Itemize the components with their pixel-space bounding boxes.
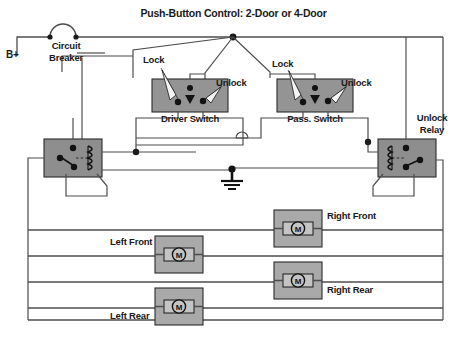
driver-lock-label: Lock — [143, 55, 164, 65]
right-front-motor-symbol: M — [295, 225, 302, 234]
wire-crossover-hop — [136, 132, 261, 145]
battery-positive-label: B+ — [6, 50, 19, 61]
door-lock-wiring-diagram: M M M M Push-Button Control: 2-Door or 4… — [0, 0, 467, 345]
breaker-terminal-dots — [47, 34, 78, 39]
lock-relay-body[interactable] — [44, 139, 102, 177]
right-rear-motor-symbol: M — [295, 277, 302, 286]
driver-unlock-label: Unlock — [216, 78, 246, 88]
motor-bus-rails — [28, 230, 443, 320]
passenger-lock-label: Lock — [272, 59, 293, 69]
circuit-breaker-label-line1: Circuit — [40, 41, 92, 51]
diagram-title: Push-Button Control: 2-Door or 4-Door — [0, 8, 467, 19]
unlock-relay-body[interactable] — [378, 139, 436, 177]
unlock-relay-label-line1: Unlock — [404, 113, 460, 123]
chassis-ground-symbol — [221, 165, 243, 189]
left-feed-wires — [100, 37, 133, 78]
passenger-unlock-label: Unlock — [341, 78, 371, 88]
left-rear-motor-symbol: M — [176, 303, 183, 312]
left-front-motor-symbol: M — [176, 251, 183, 260]
driver-switch-label: Driver Switch — [142, 114, 238, 124]
right-rear-motor-label: Right Rear — [327, 285, 373, 295]
lock-relay-out-junction — [133, 149, 139, 155]
unlock-relay-label-line2: Relay — [404, 125, 460, 135]
right-front-motor-label: Right Front — [327, 211, 376, 221]
circuit-breaker-label-line2: Breaker — [38, 53, 94, 63]
unlock-relay-in-junction — [365, 139, 371, 145]
left-vertical-feeds — [56, 53, 105, 140]
left-front-motor-label: Left Front — [110, 237, 152, 247]
left-rear-motor-label: Left Rear — [110, 311, 149, 321]
passenger-switch-label: Pass. Switch — [267, 114, 363, 124]
